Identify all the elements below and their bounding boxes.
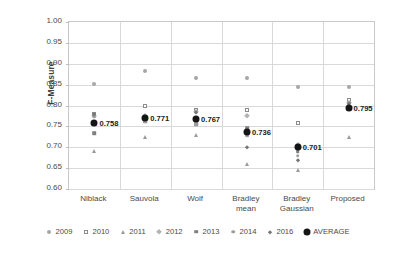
- data-point-2011: [143, 135, 147, 139]
- data-point-2011: [92, 149, 96, 153]
- y-axis-tick-label: 0.75: [32, 121, 62, 129]
- x-axis-category-label-line: Bradley: [221, 194, 272, 204]
- data-point-2010: [296, 121, 300, 125]
- x-axis-category-label: BradleyGaussian: [271, 194, 322, 213]
- data-point-2011: [296, 168, 300, 172]
- y-axis-tick-label: 0.85: [32, 80, 62, 88]
- data-point-2012: [244, 113, 250, 119]
- category-separator-line: [222, 22, 223, 189]
- y-axis-tick-label: 0.80: [32, 101, 62, 109]
- data-point-2011: [347, 135, 351, 139]
- x-axis-category-label-line: mean: [221, 204, 272, 214]
- legend-label: 2009: [56, 227, 73, 236]
- category-separator-line: [171, 22, 172, 189]
- legend-item-2010[interactable]: 2010: [82, 227, 109, 236]
- legend-item-2009[interactable]: 2009: [46, 227, 73, 236]
- y-axis-tickmark: [66, 64, 69, 65]
- data-point-2009: [92, 82, 96, 86]
- plot-area: 0.7580.7710.7670.7360.7010.795: [68, 21, 375, 190]
- legend-marker-icon: [119, 228, 126, 235]
- legend-label: 2010: [92, 227, 109, 236]
- data-point-average: [243, 129, 250, 136]
- data-point-2010: [143, 104, 147, 108]
- legend-marker-icon: [266, 228, 273, 235]
- y-axis-tickmark: [66, 126, 69, 127]
- data-point-2016: [296, 158, 300, 162]
- legend-marker-icon: [193, 228, 200, 235]
- legend-label: 2016: [276, 227, 293, 236]
- category-separator-line: [272, 22, 273, 189]
- average-value-label: 0.758: [99, 119, 118, 128]
- data-point-2011: [194, 133, 198, 137]
- y-axis-tick-label: 1.00: [32, 17, 62, 25]
- category-separator-line: [323, 22, 324, 189]
- average-value-label: 0.736: [252, 128, 271, 137]
- legend-item-2011[interactable]: 2011: [119, 227, 145, 236]
- legend-item-average[interactable]: AVERAGE: [303, 227, 349, 236]
- x-axis-category-label: Sauvola: [119, 194, 170, 204]
- x-axis-category-label-line: Sauvola: [119, 194, 170, 204]
- y-axis-tick-label: 0.90: [32, 59, 62, 67]
- data-point-2009: [143, 69, 147, 73]
- legend-item-2013[interactable]: 2013: [193, 227, 220, 236]
- y-axis-tick-label: 0.60: [32, 184, 62, 192]
- data-point-2009: [296, 85, 300, 89]
- average-value-label: 0.767: [201, 115, 220, 124]
- data-point-average: [294, 143, 301, 150]
- y-axis-tickmark: [66, 189, 69, 190]
- legend-item-2012[interactable]: 2012: [156, 227, 183, 236]
- y-axis-tickmark: [66, 85, 69, 86]
- y-axis-tickmark: [66, 168, 69, 169]
- legend-marker-icon: [82, 228, 89, 235]
- legend-label: AVERAGE: [313, 227, 349, 236]
- data-point-average: [142, 114, 149, 121]
- y-axis-tick-label: 0.70: [32, 142, 62, 150]
- y-axis-tick-label: 0.95: [32, 38, 62, 46]
- x-axis-category-label-line: Proposed: [322, 194, 373, 204]
- legend-label: 2014: [240, 227, 257, 236]
- data-point-2013: [93, 132, 97, 136]
- x-axis-category-label-line: Wolf: [170, 194, 221, 204]
- legend-label: 2012: [166, 227, 183, 236]
- legend-label: 2011: [129, 227, 145, 236]
- legend-marker-icon: [156, 228, 163, 235]
- y-axis-tickmark: [66, 22, 69, 23]
- data-point-2010: [245, 108, 249, 112]
- data-point-2016: [245, 145, 249, 149]
- data-point-2009: [194, 76, 198, 80]
- legend-marker-icon: [230, 228, 237, 235]
- x-axis-category-label: Niblack: [68, 194, 119, 204]
- x-axis-category-label-line: Bradley: [271, 194, 322, 204]
- x-axis-category-label-line: Niblack: [68, 194, 119, 204]
- x-axis-category-label: Wolf: [170, 194, 221, 204]
- legend: 2009201020112012201320142016AVERAGE: [0, 227, 395, 236]
- data-point-2014: [194, 122, 198, 126]
- x-axis-category-label: Proposed: [322, 194, 373, 204]
- x-axis-category-label: Bradleymean: [221, 194, 272, 213]
- gridline: [69, 189, 374, 190]
- legend-marker-icon: [46, 228, 53, 235]
- x-axis-category-label-line: Gaussian: [271, 204, 322, 214]
- average-value-label: 0.701: [303, 142, 322, 151]
- data-point-2011: [245, 162, 249, 166]
- data-point-2014: [296, 154, 300, 158]
- y-axis-tickmark: [66, 106, 69, 107]
- data-point-2009: [347, 85, 351, 89]
- legend-item-2016[interactable]: 2016: [266, 227, 293, 236]
- category-separator-line: [120, 22, 121, 189]
- y-axis-tickmark: [66, 43, 69, 44]
- data-point-2009: [245, 76, 249, 80]
- y-axis-tickmark: [66, 147, 69, 148]
- y-axis-tick-label: 0.65: [32, 163, 62, 171]
- average-value-label: 0.795: [354, 103, 373, 112]
- data-point-average: [193, 116, 200, 123]
- legend-item-2014[interactable]: 2014: [230, 227, 257, 236]
- data-point-average: [91, 120, 98, 127]
- legend-marker-icon: [303, 228, 310, 235]
- legend-label: 2013: [203, 227, 220, 236]
- data-point-average: [345, 104, 352, 111]
- average-value-label: 0.771: [150, 113, 169, 122]
- f-measure-scatter-chart: F-Measure 1.000.950.900.850.800.750.700.…: [0, 0, 395, 256]
